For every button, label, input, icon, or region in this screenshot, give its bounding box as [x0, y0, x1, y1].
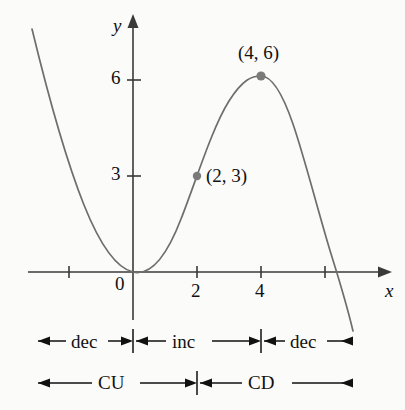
function-graph-figure [0, 0, 405, 410]
y-axis-ticks [127, 80, 141, 176]
concavity-annotation-row [38, 371, 353, 395]
x-tick-label-4: 4 [255, 281, 265, 300]
y-tick-label-3: 3 [111, 164, 121, 183]
y-tick-label-6: 6 [111, 68, 121, 87]
x-tick-label-2: 2 [191, 281, 201, 300]
x-axis-label: x [385, 281, 393, 300]
concavity-label-cd: CD [248, 373, 274, 392]
point-marker-maximum [256, 71, 265, 80]
origin-label: 0 [115, 274, 125, 293]
point-marker-inflection [193, 172, 201, 180]
point-label-inflection: (2, 3) [206, 166, 247, 185]
monotonicity-label-inc: inc [172, 332, 195, 351]
y-axis [128, 14, 139, 320]
point-label-maximum: (4, 6) [238, 43, 279, 62]
monotonicity-label-dec-right: dec [290, 332, 316, 351]
monotonicity-label-dec-left: dec [71, 332, 97, 351]
concavity-label-cu: CU [98, 373, 124, 392]
y-axis-label: y [113, 16, 121, 35]
